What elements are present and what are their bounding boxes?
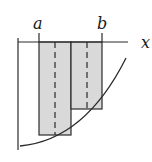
label-x-axis: x bbox=[141, 33, 150, 52]
riemann-diagram: a b x bbox=[0, 0, 152, 162]
label-b: b bbox=[97, 14, 107, 33]
label-a: a bbox=[33, 14, 43, 33]
